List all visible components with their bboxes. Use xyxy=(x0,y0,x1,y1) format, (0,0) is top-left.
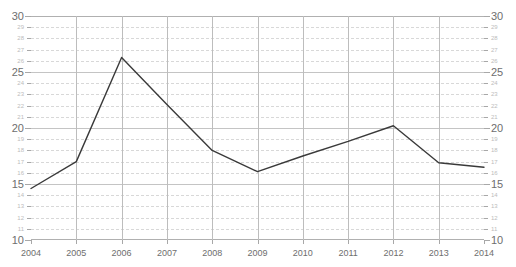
x-tick-label: 2010 xyxy=(293,249,313,258)
x-tick-label: 2007 xyxy=(157,249,177,258)
series-line xyxy=(31,16,484,240)
tick-x xyxy=(258,240,259,244)
plot-area: 1111121213131414161617171818191921212222… xyxy=(31,16,484,240)
y-tick-label-major: 25 xyxy=(491,67,503,78)
y-tick-label-minor: 17 xyxy=(491,159,498,165)
tick-minor-right xyxy=(484,229,488,230)
y-tick-label-minor: 21 xyxy=(17,114,24,120)
y-tick-label-minor: 23 xyxy=(17,91,24,97)
y-tick-label-minor: 22 xyxy=(491,103,498,109)
y-tick-label-minor: 27 xyxy=(491,47,498,53)
tick-minor-right xyxy=(484,173,488,174)
x-tick-label: 2009 xyxy=(247,249,267,258)
y-tick-label-major: 10 xyxy=(12,235,24,246)
tick-minor-right xyxy=(484,27,488,28)
data-series-series-1 xyxy=(31,57,484,188)
y-tick-label-minor: 23 xyxy=(491,91,498,97)
tick-minor-right xyxy=(484,117,488,118)
y-tick-label-minor: 14 xyxy=(491,192,498,198)
y-tick-label-minor: 21 xyxy=(491,114,498,120)
tick-x xyxy=(212,240,213,244)
tick-x xyxy=(31,240,32,244)
y-tick-label-major: 20 xyxy=(12,123,24,134)
tick-minor-right xyxy=(484,61,488,62)
y-tick-label-minor: 14 xyxy=(17,192,24,198)
tick-major-right xyxy=(484,184,490,185)
y-tick-label-major: 25 xyxy=(12,67,24,78)
tick-x xyxy=(122,240,123,244)
y-tick-label-major: 30 xyxy=(12,11,24,22)
tick-minor-right xyxy=(484,206,488,207)
tick-major-right xyxy=(484,72,490,73)
y-tick-label-minor: 29 xyxy=(17,24,24,30)
y-tick-label-major: 15 xyxy=(12,179,24,190)
tick-minor-right xyxy=(484,83,488,84)
y-tick-label-major: 20 xyxy=(491,123,503,134)
tick-minor-right xyxy=(484,162,488,163)
y-tick-label-minor: 18 xyxy=(17,147,24,153)
tick-minor-right xyxy=(484,94,488,95)
x-tick-label: 2005 xyxy=(66,249,86,258)
y-tick-label-minor: 18 xyxy=(491,147,498,153)
y-tick-label-minor: 24 xyxy=(491,80,498,86)
y-tick-label-major: 15 xyxy=(491,179,503,190)
x-tick-label: 2008 xyxy=(202,249,222,258)
tick-minor-right xyxy=(484,106,488,107)
y-tick-label-major: 30 xyxy=(491,11,503,22)
y-tick-label-minor: 27 xyxy=(17,47,24,53)
x-tick-label: 2006 xyxy=(112,249,132,258)
y-tick-label-minor: 28 xyxy=(491,35,498,41)
y-tick-label-minor: 16 xyxy=(17,170,24,176)
y-tick-label-minor: 12 xyxy=(17,215,24,221)
y-tick-label-major: 10 xyxy=(491,235,503,246)
tick-x xyxy=(484,240,485,244)
tick-x xyxy=(167,240,168,244)
x-tick-label: 2014 xyxy=(474,249,494,258)
x-tick-label: 2011 xyxy=(338,249,357,258)
y-tick-label-minor: 22 xyxy=(17,103,24,109)
y-tick-label-minor: 11 xyxy=(18,226,24,232)
y-tick-label-minor: 13 xyxy=(17,203,24,209)
tick-minor-right xyxy=(484,195,488,196)
y-tick-label-minor: 19 xyxy=(17,136,24,142)
tick-minor-right xyxy=(484,150,488,151)
x-tick-label: 2012 xyxy=(383,249,403,258)
tick-x xyxy=(393,240,394,244)
y-tick-label-minor: 19 xyxy=(491,136,498,142)
tick-minor-right xyxy=(484,38,488,39)
y-tick-label-minor: 16 xyxy=(491,170,498,176)
tick-major-right xyxy=(484,16,490,17)
tick-major-right xyxy=(484,128,490,129)
tick-x xyxy=(439,240,440,244)
tick-x xyxy=(348,240,349,244)
tick-x xyxy=(303,240,304,244)
x-tick-label: 2004 xyxy=(21,249,41,258)
tick-minor-right xyxy=(484,139,488,140)
y-tick-label-minor: 17 xyxy=(17,159,24,165)
y-tick-label-minor: 26 xyxy=(17,58,24,64)
tick-x xyxy=(76,240,77,244)
y-tick-label-minor: 28 xyxy=(17,35,24,41)
y-tick-label-minor: 26 xyxy=(491,58,498,64)
tick-minor-right xyxy=(484,218,488,219)
chart-title xyxy=(0,0,516,2)
x-tick-label: 2013 xyxy=(429,249,449,258)
y-tick-label-minor: 12 xyxy=(491,215,498,221)
y-tick-label-minor: 11 xyxy=(491,226,497,232)
tick-minor-right xyxy=(484,50,488,51)
y-tick-label-minor: 29 xyxy=(491,24,498,30)
line-chart: 1111121213131414161617171818191921212222… xyxy=(0,0,516,267)
y-tick-label-minor: 13 xyxy=(491,203,498,209)
y-tick-label-minor: 24 xyxy=(17,80,24,86)
